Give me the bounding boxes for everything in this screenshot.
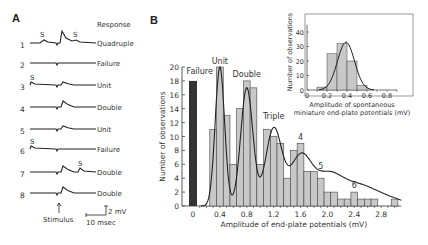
histogram-bar — [250, 88, 257, 206]
histogram-bar — [337, 199, 344, 206]
svg-text:0.8: 0.8 — [382, 92, 392, 100]
svg-text:2.0: 2.0 — [321, 210, 333, 219]
histogram-bar — [290, 150, 297, 206]
x-axis-label: Amplitude of end-plate potentials (mV) — [221, 220, 368, 229]
histogram-bar — [344, 199, 351, 206]
histogram-bar — [210, 130, 217, 206]
y-axis-label: Number of observations — [158, 91, 167, 181]
svg-text:0.2: 0.2 — [322, 92, 332, 100]
annotation-unit: Unit — [212, 57, 228, 66]
histogram-bar — [391, 199, 398, 206]
histogram-bar — [358, 199, 365, 206]
svg-text:Number of observations: Number of observations — [286, 12, 294, 91]
histogram-bar — [270, 137, 277, 207]
inset-x-label-2: miniature end-plate potentials (mV) — [294, 109, 411, 117]
svg-text:18: 18 — [169, 77, 179, 86]
svg-text:4: 4 — [174, 174, 179, 183]
svg-text:8: 8 — [174, 146, 179, 155]
svg-text:12: 12 — [169, 119, 179, 128]
histogram-bar — [284, 178, 291, 206]
failure-bar — [189, 81, 197, 206]
histogram-bar — [371, 199, 378, 206]
svg-text:10: 10 — [296, 72, 304, 80]
svg-text:20: 20 — [296, 58, 304, 66]
svg-text:30: 30 — [296, 43, 304, 51]
inset-frame — [305, 14, 413, 96]
panel-b-histogram: 02468101214161820Number of observations0… — [0, 0, 428, 245]
svg-text:2: 2 — [174, 188, 179, 197]
annotation-4: 4 — [298, 133, 303, 142]
svg-text:0.4: 0.4 — [342, 92, 352, 100]
histogram-bar — [324, 192, 331, 206]
histogram-bar — [317, 178, 324, 206]
svg-text:2.4: 2.4 — [348, 210, 360, 219]
annotation-triple: Triple — [262, 112, 285, 121]
svg-text:2.8: 2.8 — [375, 210, 387, 219]
histogram-bar — [331, 192, 338, 206]
annotation-failure: Failure — [187, 67, 213, 76]
annotation-5: 5 — [318, 162, 323, 171]
svg-text:1.2: 1.2 — [268, 210, 280, 219]
histogram-bar — [351, 192, 358, 206]
histogram-bar — [237, 109, 244, 206]
svg-text:0: 0 — [300, 87, 304, 95]
histogram-bar — [304, 171, 311, 206]
svg-text:0: 0 — [191, 210, 196, 219]
svg-text:0: 0 — [305, 92, 309, 100]
svg-text:40: 40 — [296, 29, 304, 37]
histogram-bar — [364, 199, 371, 206]
svg-text:0.8: 0.8 — [241, 210, 253, 219]
svg-text:0.6: 0.6 — [362, 92, 372, 100]
inset-x-label-1: Amplitude of spontaneous — [309, 101, 395, 109]
svg-text:16: 16 — [169, 91, 179, 100]
svg-text:14: 14 — [169, 105, 179, 114]
svg-text:10: 10 — [169, 133, 179, 142]
histogram-bar — [311, 171, 318, 206]
annotation-double: Double — [233, 70, 261, 79]
svg-text:0.4: 0.4 — [214, 210, 226, 219]
svg-text:20: 20 — [169, 63, 179, 72]
svg-text:0: 0 — [174, 202, 179, 211]
svg-text:1.6: 1.6 — [295, 210, 307, 219]
inset-bar — [337, 44, 347, 90]
annotation-6: 6 — [352, 181, 357, 190]
svg-text:6: 6 — [174, 160, 179, 169]
